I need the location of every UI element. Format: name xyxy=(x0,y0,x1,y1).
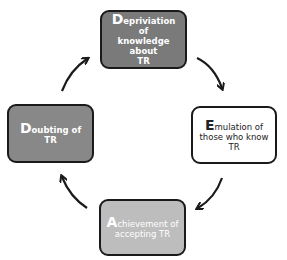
node-deprivation-of-knowledge: Depriviation of knowledge about TR xyxy=(100,10,187,69)
node-text: chievement of xyxy=(117,219,178,229)
node-achievement-of-accepting: Achievement of accepting TR xyxy=(99,199,186,256)
arrow-right-to-bottom xyxy=(198,178,222,208)
node-text-line2: accepting TR xyxy=(115,229,170,239)
node-text-line3: TR xyxy=(137,56,149,66)
node-initial: D xyxy=(20,120,32,136)
node-initial: E xyxy=(205,117,215,133)
arrow-bottom-to-left xyxy=(62,177,87,208)
node-text: mulation of xyxy=(215,122,263,132)
node-initial: D xyxy=(112,11,124,27)
node-emulation-of-those-who-know: Emulation of those who know TR xyxy=(191,106,277,164)
node-text: oubting of TR xyxy=(32,125,82,145)
node-text: epriviation of xyxy=(123,16,175,36)
node-text-line2: knowledge about xyxy=(117,36,169,56)
node-text-line3: TR xyxy=(228,142,239,152)
node-initial: A xyxy=(107,214,118,230)
node-doubting: Doubting of TR xyxy=(7,104,94,163)
arrow-left-to-top xyxy=(62,59,87,91)
node-text-line2: those who know xyxy=(200,132,269,142)
arrow-top-to-right xyxy=(197,58,222,88)
